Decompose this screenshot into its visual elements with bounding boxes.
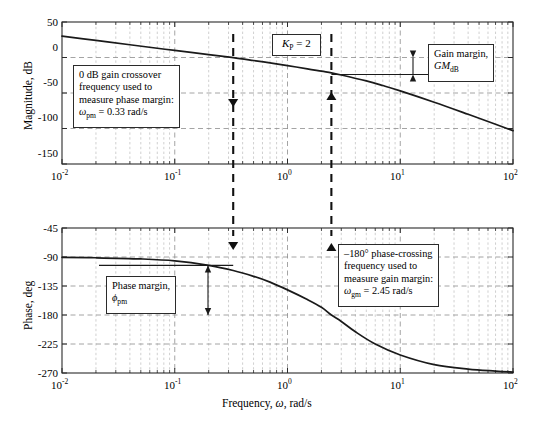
ph-xtick-1-exp: -2 <box>62 377 68 386</box>
ph-xtick-5-exp: 2 <box>514 377 518 386</box>
frequency-axis-title: Frequency, ω, rad/s <box>222 397 312 409</box>
phase-margin-callout: Phase margin, ϕpm <box>106 276 176 314</box>
mag-xtick-5-exp: 2 <box>514 168 518 177</box>
magnitude-axis-title: Magnitude, dB <box>22 61 34 130</box>
phi-pm-subscript: pm <box>117 297 127 306</box>
omega-symbol: ω <box>276 397 284 409</box>
mag-xtick-3-base: 10 <box>277 170 288 182</box>
ph-xtick-2-exp: -1 <box>175 377 181 386</box>
omega-pm-value: = 0.33 rad/s <box>96 106 148 117</box>
mag-ytick-m100: -100 <box>30 111 58 123</box>
ph-xtick-3-exp: 0 <box>288 377 292 386</box>
mag-xtick-2-exp: -1 <box>175 168 181 177</box>
ph-xtick-5: 102 <box>503 377 518 391</box>
mag-ytick-m150: -150 <box>30 147 58 159</box>
xaxis-title-pre: Frequency, <box>222 397 276 409</box>
phase-axis-title: Phase, deg <box>22 281 34 330</box>
ph-ytick-m90: -90 <box>26 251 58 263</box>
phase-margin-line1: Phase margin, <box>112 280 170 292</box>
ph-ytick-m225: -225 <box>26 338 58 350</box>
crossover-line3: measure phase margin: <box>79 94 174 106</box>
omega-gm-subscript: gm <box>351 290 361 299</box>
ph-xtick-4-base: 10 <box>390 379 401 391</box>
phase-margin-marker-arrow-phase <box>228 242 238 250</box>
ph-xtick-2: 10-1 <box>164 377 181 391</box>
mag-xtick-3: 100 <box>277 168 292 182</box>
crossover-line1: 0 dB gain crossover <box>79 69 174 81</box>
mag-xtick-2-base: 10 <box>164 170 175 182</box>
gain-crossover-callout: 0 dB gain crossover frequency used to me… <box>73 65 180 128</box>
gain-margin-line1: Gain margin, <box>434 48 488 60</box>
mag-xtick-4-base: 10 <box>390 170 401 182</box>
mag-xtick-4: 101 <box>390 168 405 182</box>
gm-symbol: GM <box>434 60 450 71</box>
ph-ytick-m45: -45 <box>26 222 58 234</box>
gain-margin-arrow-head-top <box>410 51 416 58</box>
gain-margin-marker-arrow-phase <box>326 243 336 251</box>
kp-equals-value: = 2 <box>294 37 311 49</box>
omega-pm-subscript: pm <box>86 111 96 120</box>
phase-margin-marker-arrow-mag <box>228 99 238 107</box>
mag-xtick-2: 10-1 <box>164 168 181 182</box>
xaxis-title-post: , rad/s <box>284 397 312 409</box>
omega-gm-value: = 2.45 rad/s <box>361 285 413 296</box>
mag-xtick-1-exp: -2 <box>62 168 68 177</box>
mag-xtick-1-base: 10 <box>51 170 62 182</box>
ph-xtick-4-exp: 1 <box>401 377 405 386</box>
ph-xtick-2-base: 10 <box>164 379 175 391</box>
phase-crossing-line3: measure gain margin: <box>344 273 433 285</box>
phase-crossing-callout: –180° phase-crossing frequency used to m… <box>338 244 439 307</box>
mag-xtick-4-exp: 1 <box>401 168 405 177</box>
mag-ytick-m50: -50 <box>30 76 58 88</box>
kp-value-box: KP = 2 <box>272 34 321 56</box>
phase-crossing-line2: frequency used to <box>344 260 433 272</box>
mag-xtick-1: 10-2 <box>51 168 68 182</box>
gm-subscript: dB <box>450 65 459 74</box>
ph-xtick-1-base: 10 <box>51 379 62 391</box>
phase-margin-arrow-head-bottom <box>205 308 211 315</box>
mag-ytick-0: 0 <box>30 41 58 53</box>
ph-xtick-4: 101 <box>390 377 405 391</box>
phase-crossing-line1: –180° phase-crossing <box>344 248 433 260</box>
mag-xtick-5-base: 10 <box>503 170 514 182</box>
gain-margin-arrow-head-bottom <box>410 75 416 82</box>
ph-xtick-1: 10-2 <box>51 377 68 391</box>
ph-xtick-3: 100 <box>277 377 292 391</box>
gain-margin-callout: Gain margin, GMdB <box>428 44 494 82</box>
mag-ytick-50: 50 <box>30 16 58 28</box>
ph-xtick-5-base: 10 <box>503 379 514 391</box>
ph-xtick-3-base: 10 <box>277 379 288 391</box>
mag-xtick-3-exp: 0 <box>288 168 292 177</box>
mag-xtick-5: 102 <box>503 168 518 182</box>
crossover-line2: frequency used to <box>79 81 174 93</box>
